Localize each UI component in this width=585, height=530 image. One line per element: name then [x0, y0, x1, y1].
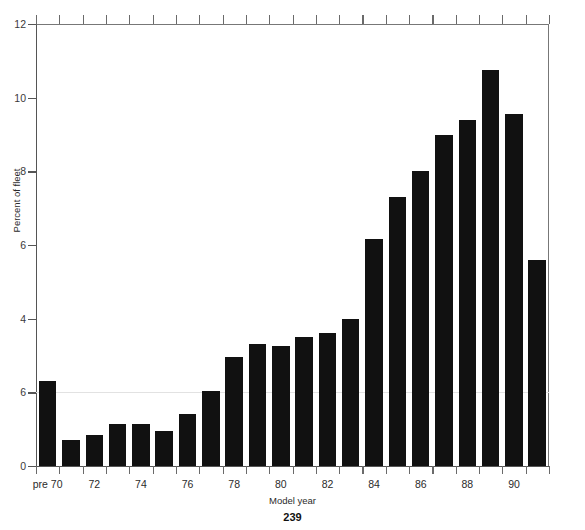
y-tick-mark: [28, 24, 36, 25]
x-tick-mark-top: [83, 15, 84, 24]
bar: [505, 114, 522, 466]
y-tick-label: 4: [2, 313, 26, 325]
x-tick-mark-top: [153, 15, 154, 24]
x-tick-mark-top: [409, 15, 410, 24]
bar-slot: [129, 24, 152, 466]
y-axis-title: Percent of fleet: [11, 151, 22, 251]
x-tick-label: 78: [228, 478, 240, 490]
bar-slot: [269, 24, 292, 466]
bar: [109, 424, 126, 466]
bar-slot: [199, 24, 222, 466]
x-tick-label: 72: [88, 478, 100, 490]
bar-slot: [36, 24, 59, 466]
bar: [62, 440, 79, 466]
bar-slot: [362, 24, 385, 466]
bar-slot: [246, 24, 269, 466]
bar: [39, 381, 56, 466]
x-tick-mark-top: [176, 15, 177, 24]
x-tick-label: 88: [462, 478, 474, 490]
bar-slot: [502, 24, 525, 466]
bar-slot: [223, 24, 246, 466]
x-tick-mark: [106, 466, 107, 474]
x-tick-mark-top: [456, 15, 457, 24]
bar: [365, 239, 382, 466]
bar-slot: [292, 24, 315, 466]
bar: [342, 319, 359, 466]
bar: [412, 171, 429, 466]
bar: [272, 346, 289, 466]
x-tick-mark: [316, 466, 317, 474]
x-tick-mark: [129, 466, 130, 474]
bar: [225, 357, 242, 466]
x-tick-mark-top: [316, 15, 317, 24]
bar-slot: [526, 24, 549, 466]
bar-slot: [176, 24, 199, 466]
bar-slot: [106, 24, 129, 466]
y-tick-label: 12: [2, 18, 26, 30]
x-tick-mark: [339, 466, 340, 474]
x-tick-mark-top: [549, 15, 550, 24]
y-tick-mark: [28, 466, 36, 467]
bar: [459, 120, 476, 466]
x-tick-mark: [36, 466, 37, 474]
bar: [389, 197, 406, 466]
y-tick-mark: [28, 98, 36, 99]
x-tick-mark-top: [362, 15, 363, 24]
y-tick-mark: [28, 245, 36, 246]
x-tick-mark: [526, 466, 527, 474]
x-tick-label: 82: [322, 478, 334, 490]
x-tick-mark-top: [479, 15, 480, 24]
x-tick-mark: [199, 466, 200, 474]
x-tick-mark: [502, 466, 503, 474]
x-tick-mark: [223, 466, 224, 474]
x-tick-label: 90: [508, 478, 520, 490]
x-tick-mark-top: [293, 15, 294, 24]
x-tick-mark: [293, 466, 294, 474]
bar-slot: [479, 24, 502, 466]
x-tick-mark-top: [223, 15, 224, 24]
x-tick-mark-top: [432, 15, 433, 24]
bar: [249, 344, 266, 466]
bar: [155, 431, 172, 466]
bar: [295, 337, 312, 466]
x-tick-mark-top: [36, 15, 37, 24]
x-tick-mark: [479, 466, 480, 474]
bar-slot: [456, 24, 479, 466]
x-tick-mark: [269, 466, 270, 474]
y-tick-mark: [28, 319, 36, 320]
x-axis-title: Model year: [0, 495, 585, 506]
x-tick-mark-top: [129, 15, 130, 24]
x-tick-label: 86: [415, 478, 427, 490]
bar: [319, 333, 336, 466]
x-tick-mark-top: [59, 15, 60, 24]
y-tick-label: 6: [2, 386, 26, 398]
bar-slot: [339, 24, 362, 466]
bar: [528, 260, 545, 466]
y-tick-mark: [28, 171, 36, 172]
x-tick-mark-top: [339, 15, 340, 24]
x-tick-label: 76: [182, 478, 194, 490]
bar: [482, 70, 499, 466]
y-tick-label: 10: [2, 92, 26, 104]
bar: [179, 414, 196, 466]
page-number: 239: [0, 511, 585, 523]
x-tick-mark-top: [269, 15, 270, 24]
x-tick-mark-top: [386, 15, 387, 24]
bar-series: [36, 24, 549, 466]
bar-slot: [83, 24, 106, 466]
bar-slot: [59, 24, 82, 466]
x-tick-mark: [59, 466, 60, 474]
x-tick-mark: [549, 466, 550, 474]
x-tick-mark: [83, 466, 84, 474]
bar-chart-figure: 121086460 pre 7072747678808284868890 Per…: [0, 0, 585, 530]
y-tick-mark: [28, 392, 36, 393]
bar-slot: [432, 24, 455, 466]
x-tick-mark: [409, 466, 410, 474]
x-tick-mark: [386, 466, 387, 474]
x-tick-mark: [456, 466, 457, 474]
x-tick-mark-top: [246, 15, 247, 24]
x-tick-mark-top: [106, 15, 107, 24]
bar-slot: [386, 24, 409, 466]
x-tick-mark-top: [199, 15, 200, 24]
bar: [86, 435, 103, 466]
